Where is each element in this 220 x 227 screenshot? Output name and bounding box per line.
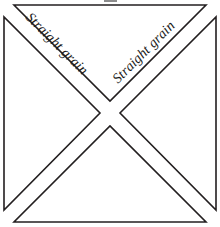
top-crop-mark (104, 0, 117, 2)
grain-diagram-canvas: Straight grain Straight grain (0, 0, 220, 227)
grain-diagram-figure: Straight grain Straight grain (0, 0, 220, 227)
